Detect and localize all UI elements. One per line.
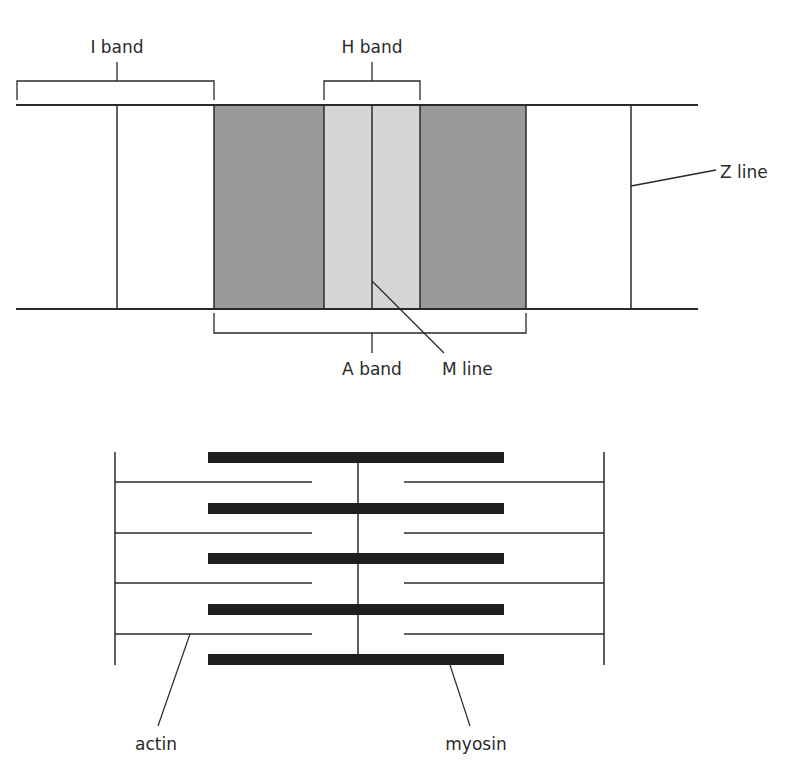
m-line-label: M line [442, 359, 493, 379]
sarcomere-diagram: I band H band Z line A band M line actin… [0, 0, 806, 781]
z-line-label: Z line [720, 162, 768, 182]
myosin-filament [208, 553, 504, 564]
myosin-filament [208, 452, 504, 463]
a-band-bracket [214, 313, 526, 353]
i-band-label: I band [90, 37, 143, 57]
myosin-leader [450, 665, 470, 726]
a-band-right-region [420, 105, 526, 309]
i-band-bracket [17, 62, 214, 100]
band-schematic [16, 62, 716, 353]
actin-leader [158, 634, 190, 726]
a-band-left-region [214, 105, 324, 309]
h-band-label: H band [342, 37, 403, 57]
myosin-filament [208, 654, 504, 665]
actin-label: actin [135, 734, 177, 754]
z-line-leader [631, 170, 716, 186]
myosin-filament [208, 604, 504, 615]
a-band-label: A band [342, 359, 402, 379]
myosin-filament [208, 503, 504, 514]
filament-schematic [115, 452, 604, 726]
h-band-bracket [324, 62, 420, 100]
myosin-label: myosin [445, 734, 506, 754]
